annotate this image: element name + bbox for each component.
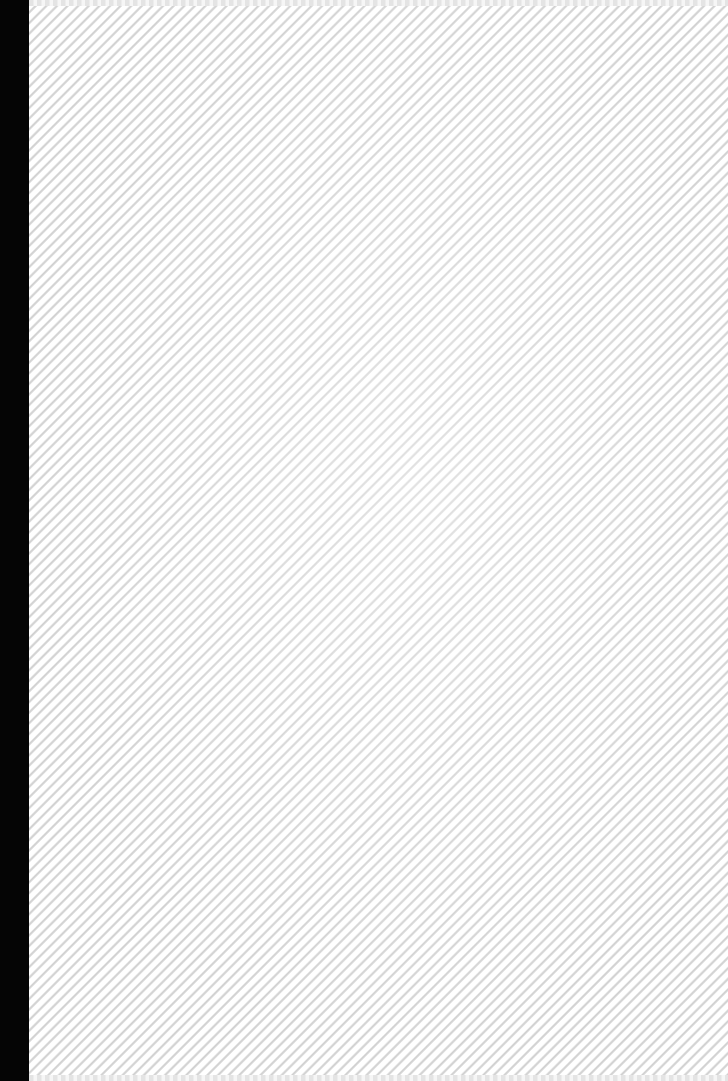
top-edge [29, 0, 728, 6]
bottom-edge [29, 1075, 728, 1081]
striped-cover-surface [29, 0, 728, 1081]
black-spine [0, 0, 29, 1081]
book-cover [0, 0, 728, 1081]
